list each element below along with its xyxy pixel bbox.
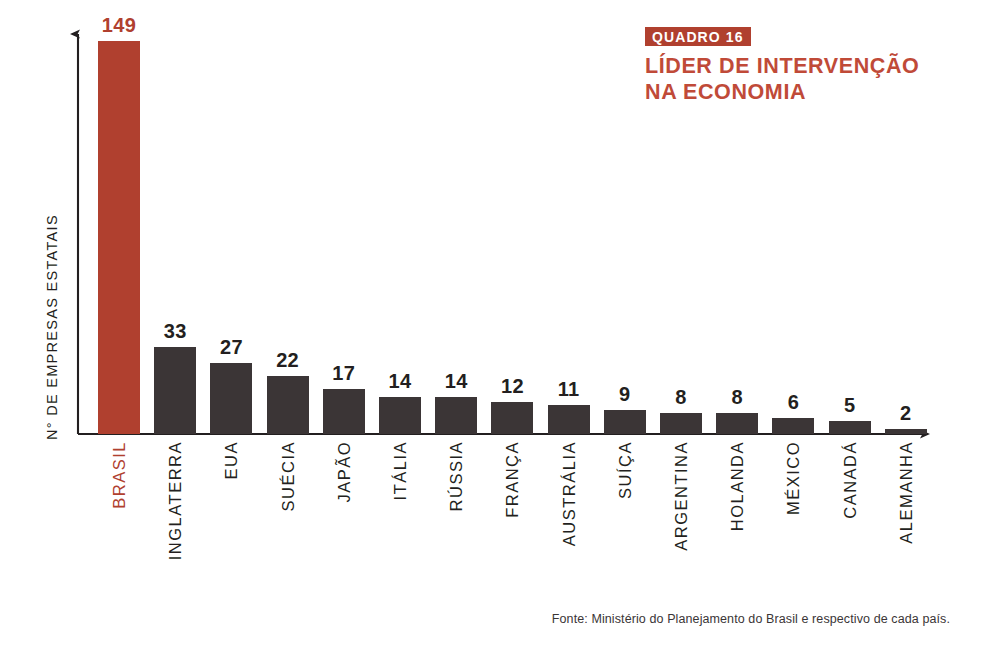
category-label: BRASIL bbox=[110, 441, 129, 509]
category-label-slot: EUA bbox=[210, 441, 252, 611]
category-label: RÚSSIA bbox=[447, 441, 466, 511]
category-label-slot: FRANÇA bbox=[491, 441, 533, 611]
category-label-slot: SUÍÇA bbox=[604, 441, 646, 611]
category-label: JAPÃO bbox=[334, 441, 353, 503]
category-label-slot: AUSTRÁLIA bbox=[548, 441, 590, 611]
y-axis-label: N° DE EMPRESAS ESTATAIS bbox=[44, 140, 60, 440]
category-label: HOLANDA bbox=[728, 441, 747, 531]
category-label-slot: JAPÃO bbox=[323, 441, 365, 611]
category-label-slot: INGLATERRA bbox=[154, 441, 196, 611]
category-label: ALEMANHA bbox=[896, 441, 915, 544]
category-label-slot: BRASIL bbox=[98, 441, 140, 611]
category-label-slot: SUÉCIA bbox=[267, 441, 309, 611]
category-label: ITÁLIA bbox=[391, 441, 410, 500]
category-label-slot: ARGENTINA bbox=[660, 441, 702, 611]
category-label-slot: CANADÁ bbox=[829, 441, 871, 611]
category-label-slot: RÚSSIA bbox=[435, 441, 477, 611]
category-label: EUA bbox=[222, 441, 241, 479]
source-note: Fonte: Ministério do Planejamento do Bra… bbox=[552, 612, 950, 626]
category-label: SUÍÇA bbox=[615, 441, 634, 499]
category-label-slot: ALEMANHA bbox=[885, 441, 927, 611]
category-label-slot: MÉXICO bbox=[772, 441, 814, 611]
category-label: MÉXICO bbox=[784, 441, 803, 515]
category-labels-container: BRASILINGLATERRAEUASUÉCIAJAPÃOITÁLIARÚSS… bbox=[98, 0, 938, 649]
category-label: ARGENTINA bbox=[672, 441, 691, 551]
category-label: INGLATERRA bbox=[166, 441, 185, 560]
category-label: SUÉCIA bbox=[278, 441, 297, 511]
category-label: CANADÁ bbox=[840, 441, 859, 519]
category-label-slot: HOLANDA bbox=[716, 441, 758, 611]
chart-canvas: QUADRO 16 LÍDER DE INTERVENÇÃO NA ECONOM… bbox=[0, 0, 988, 649]
category-label: AUSTRÁLIA bbox=[559, 441, 578, 546]
category-label: FRANÇA bbox=[503, 441, 522, 518]
category-label-slot: ITÁLIA bbox=[379, 441, 421, 611]
